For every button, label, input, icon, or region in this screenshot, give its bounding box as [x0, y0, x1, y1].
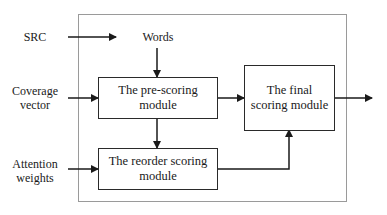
prescoring-module-box: The pre-scoring module — [98, 77, 218, 119]
input-src-label: SRC — [15, 30, 55, 44]
final-line-2: scoring module — [251, 98, 328, 113]
input-attention-label: Attention weights — [6, 157, 64, 185]
prescoring-line-1: The pre-scoring — [118, 83, 197, 98]
prescoring-line-2: module — [118, 98, 197, 113]
words-label: Words — [128, 30, 188, 44]
arrow-reorder-to-final — [217, 130, 289, 169]
input-coverage-label: Coverage vector — [6, 84, 64, 112]
diagram-canvas: SRC Coverage vector Attention weights Wo… — [0, 0, 387, 215]
words-text: Words — [142, 30, 173, 44]
coverage-line-2: vector — [6, 98, 64, 112]
attention-line-2: weights — [6, 171, 64, 185]
reorder-line-1: The reorder scoring — [109, 154, 208, 169]
final-module-box: The final scoring module — [244, 65, 335, 131]
coverage-line-1: Coverage — [6, 84, 64, 98]
reorder-module-box: The reorder scoring module — [98, 148, 218, 190]
final-line-1: The final — [251, 83, 328, 98]
attention-line-1: Attention — [6, 157, 64, 171]
reorder-line-2: module — [109, 169, 208, 184]
src-text: SRC — [24, 30, 47, 44]
